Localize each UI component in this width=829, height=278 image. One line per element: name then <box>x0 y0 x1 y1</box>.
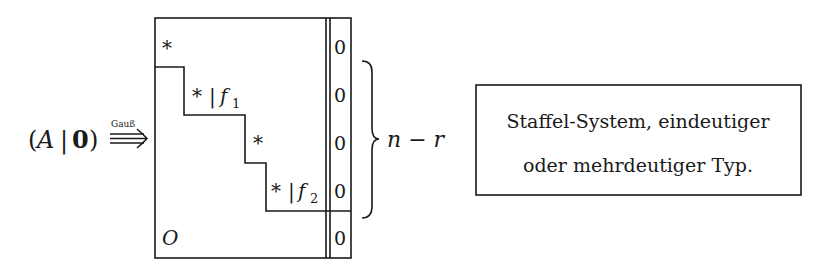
pivot-4: * | f 2 <box>271 179 318 206</box>
svg-text:0: 0 <box>334 132 346 154</box>
pivot-3: * <box>253 131 263 155</box>
left-expression: ( A | 0 ) Gauß <box>28 119 147 155</box>
result-line-2: oder mehrdeutiger Typ. <box>523 154 753 176</box>
rhs-column: 0 0 0 0 0 <box>334 36 346 249</box>
svg-text:*: * <box>192 84 202 108</box>
svg-text:0: 0 <box>334 36 346 58</box>
result-box: Staffel-System, eindeutiger oder mehrdeu… <box>476 85 801 195</box>
svg-text:0: 0 <box>334 84 346 106</box>
svg-text:0: 0 <box>334 227 346 249</box>
svg-text:1: 1 <box>232 96 240 111</box>
svg-text:f: f <box>218 84 231 108</box>
svg-text:0: 0 <box>334 180 346 202</box>
brace-label: n − r <box>387 127 446 152</box>
implies-arrow-icon <box>110 129 147 148</box>
open-paren: ( <box>28 126 37 154</box>
zero-vector: 0 <box>72 125 89 154</box>
pivot-2: * | f 1 <box>192 84 240 111</box>
svg-text:|: | <box>288 179 295 204</box>
gauss-diagram: ( A | 0 ) Gauß * * | f 1 * * | f 2 <box>0 0 829 278</box>
svg-text:|: | <box>209 84 216 109</box>
result-line-1: Staffel-System, eindeutiger <box>506 110 770 132</box>
matrix-a: A <box>35 126 54 154</box>
pivot-1: * <box>162 36 172 60</box>
zero-block-label: O <box>162 226 178 250</box>
matrix-block: * * | f 1 * * | f 2 O 0 0 0 0 0 <box>155 18 351 258</box>
svg-text:*: * <box>271 179 281 203</box>
separator: | <box>60 126 68 155</box>
arrow-label: Gauß <box>111 119 135 129</box>
svg-text:f: f <box>296 179 309 203</box>
right-brace-icon <box>362 61 379 218</box>
svg-text:2: 2 <box>310 191 318 206</box>
close-paren: ) <box>89 126 98 154</box>
